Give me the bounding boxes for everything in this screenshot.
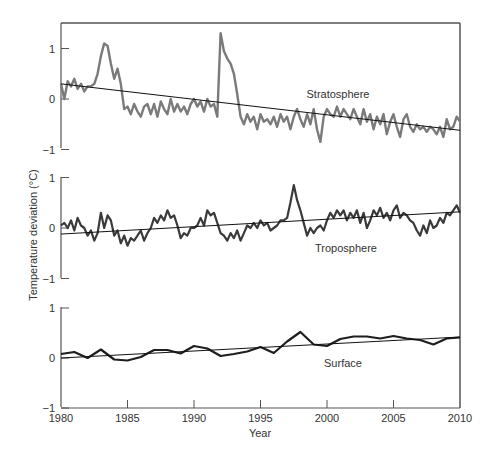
trend-line <box>61 337 460 358</box>
panel-label: Stratosphere <box>307 88 370 100</box>
x-tick-label: 1985 <box>115 412 139 424</box>
panel-troposphere: −101Troposphere <box>42 172 460 285</box>
y-tick-label: 0 <box>49 222 55 234</box>
x-tick-label: 2005 <box>381 412 405 424</box>
y-axis-title: Temperature deviation (°C) <box>27 169 39 301</box>
y-tick-label: 1 <box>49 302 55 314</box>
x-axis-title: Year <box>249 427 272 439</box>
y-tick-label: 0 <box>49 93 55 105</box>
y-tick-label: 0 <box>49 352 55 364</box>
y-tick-label: −1 <box>42 273 55 285</box>
x-tick-label: 1980 <box>49 412 73 424</box>
x-tick-label: 2000 <box>315 412 339 424</box>
y-tick-label: 1 <box>49 172 55 184</box>
x-tick-label: 1995 <box>248 412 272 424</box>
x-tick-label: 2010 <box>448 412 472 424</box>
trend-line <box>61 84 460 130</box>
panel-label: Surface <box>324 357 362 369</box>
y-tick-label: 1 <box>49 43 55 55</box>
temperature-deviation-chart: −101Stratosphere−101Troposphere−101Surfa… <box>0 0 499 468</box>
x-tick-label: 1990 <box>182 412 206 424</box>
y-tick-label: −1 <box>42 144 55 156</box>
data-line <box>61 332 460 361</box>
data-line <box>61 33 460 142</box>
panel-stratosphere: −101Stratosphere <box>42 23 460 156</box>
trend-line <box>61 212 460 234</box>
panel-label: Troposphere <box>315 242 377 254</box>
panel-surface: −101Surface <box>42 302 460 414</box>
